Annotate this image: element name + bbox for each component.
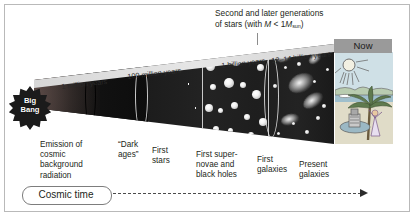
shell-ellipse-dark bbox=[85, 66, 96, 126]
label-first-stars: First stars bbox=[152, 146, 186, 166]
label-cmb-emission: Emission of cosmic background radiation bbox=[40, 140, 104, 181]
cosmic-time-arrowhead bbox=[360, 189, 368, 197]
label-first-supernovae: First super- novae and black holes bbox=[196, 150, 260, 181]
cosmic-history-figure: Second and later generations of stars (w… bbox=[0, 0, 415, 217]
cosmic-time-label: Cosmic time bbox=[22, 186, 110, 203]
big-bang-burst: Big Bang bbox=[7, 85, 53, 131]
shell-ellipse-light-2 bbox=[264, 54, 279, 138]
top-caption-line2: of stars (with M < 1Msun) bbox=[215, 19, 303, 29]
era-separator bbox=[202, 44, 203, 144]
big-bang-label: Big Bang bbox=[7, 96, 53, 114]
label-dark-ages: “Dark ages” bbox=[118, 140, 152, 160]
label-first-galaxies: First galaxies bbox=[257, 155, 299, 175]
top-caption: Second and later generations of stars (w… bbox=[215, 8, 375, 32]
label-present-galaxies: Present galaxies bbox=[299, 160, 349, 180]
now-label: Now bbox=[334, 39, 392, 53]
top-caption-line1: Second and later generations bbox=[215, 8, 323, 18]
now-illustration bbox=[334, 52, 393, 144]
beach-scene-icon bbox=[335, 52, 393, 144]
cosmic-time-dashed-line bbox=[113, 193, 361, 194]
